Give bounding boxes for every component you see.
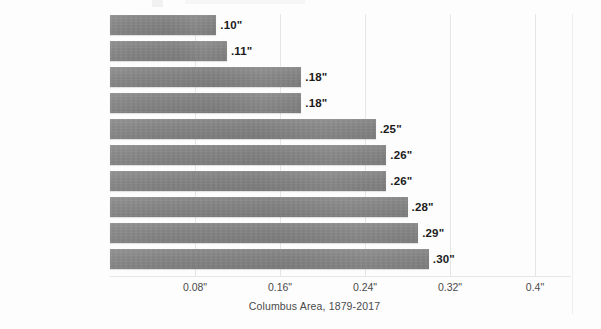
bar [110,197,408,217]
scan-artifact-edge [572,14,573,314]
bar [110,223,418,243]
chart-row: March 1910.28" [110,196,571,218]
bar-value-label: .26" [390,170,412,192]
chart-row: October 1944.25" [110,118,571,140]
chart-row: October 1879.26" [110,170,571,192]
chart-row: October 1934.26" [110,144,571,166]
bar-value-label: .18" [305,66,327,88]
bar [110,171,386,191]
chart-row: October 1887.30" [110,248,571,270]
bar [110,15,216,35]
bar [110,67,301,87]
bar-value-label: .10" [220,14,242,36]
chart-row: November 1904.18" [110,92,571,114]
x-axis-baseline [110,276,571,277]
x-tick-label: 0.32" [410,281,490,293]
bar-value-label: .26" [390,144,412,166]
chart-row: October 1963.11" [110,40,571,62]
x-axis-label-text: Columbus Area, 1879-2017 [249,300,380,312]
bar [110,93,301,113]
bar-value-label: .18" [305,92,327,114]
x-tick-label: 0.4" [495,281,575,293]
bar [110,249,429,269]
x-axis-label: Columbus Area, 1879-2017 [0,300,601,312]
scan-artifact-band [185,0,305,4]
x-tick-label: 0.16" [240,281,320,293]
bar [110,119,376,139]
x-tick-label: 0.24" [325,281,405,293]
scan-artifact-smudge [152,0,163,7]
bar-chart: October 1924.10"October 1963.11"November… [0,0,601,329]
chart-row: November 1917.18" [110,66,571,88]
chart-row: February 1978.29" [110,222,571,244]
bar-value-label: .28" [412,196,434,218]
bar-value-label: .30" [433,248,455,270]
plot-area: October 1924.10"October 1963.11"November… [110,14,571,276]
bar [110,41,227,61]
bar-value-label: .25" [380,118,402,140]
bar [110,145,386,165]
chart-row: October 1924.10" [110,14,571,36]
bar-value-label: .11" [231,40,253,62]
x-tick-label: 0.08" [155,281,235,293]
bar-value-label: .29" [422,222,444,244]
